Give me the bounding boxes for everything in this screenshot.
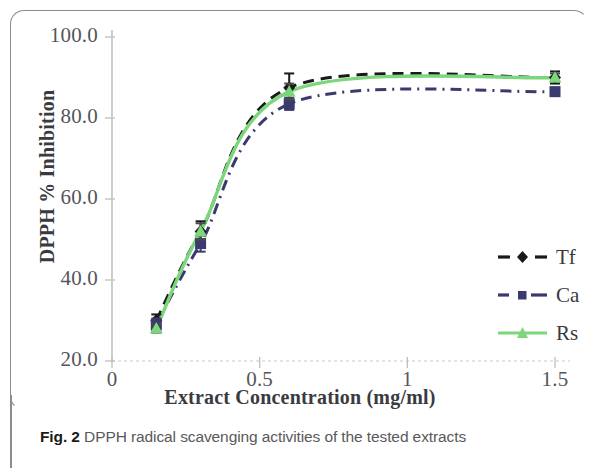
legend-marker-triangle-icon — [497, 324, 549, 342]
x-axis-title: Extract Concentration (mg/ml) — [130, 386, 470, 409]
x-axis-ticks — [112, 357, 555, 368]
legend-marker-diamond-icon — [497, 248, 549, 266]
legend-label-tf: Tf — [556, 245, 576, 270]
legend-marker-square-icon — [497, 286, 549, 304]
figure-caption: Fig. 2 DPPH radical scavenging activitie… — [40, 428, 585, 446]
y-axis-title: DPPH % Inhibition — [36, 52, 59, 302]
figure-caption-text: DPPH radical scavenging activities of th… — [80, 428, 466, 445]
legend-label-rs: Rs — [556, 321, 578, 346]
chart-plot-area: 20.0 40.0 60.0 80.0 100.0 0 0.5 1 1.5 Ex… — [0, 0, 600, 400]
legend-item-ca: Ca — [497, 276, 579, 314]
y-tick-label: 100.0 — [8, 23, 98, 48]
chart-legend: Tf Ca Rs — [497, 238, 579, 352]
figure-container: 20.0 40.0 60.0 80.0 100.0 0 0.5 1 1.5 Ex… — [0, 0, 600, 468]
y-axis-ticks — [105, 37, 115, 361]
figure-caption-number: Fig. 2 — [40, 428, 80, 445]
legend-item-rs: Rs — [497, 314, 579, 352]
legend-item-tf: Tf — [497, 238, 579, 276]
x-tick-label: 1.5 — [525, 367, 585, 392]
figure-left-rule — [10, 395, 12, 468]
legend-label-ca: Ca — [556, 283, 579, 308]
